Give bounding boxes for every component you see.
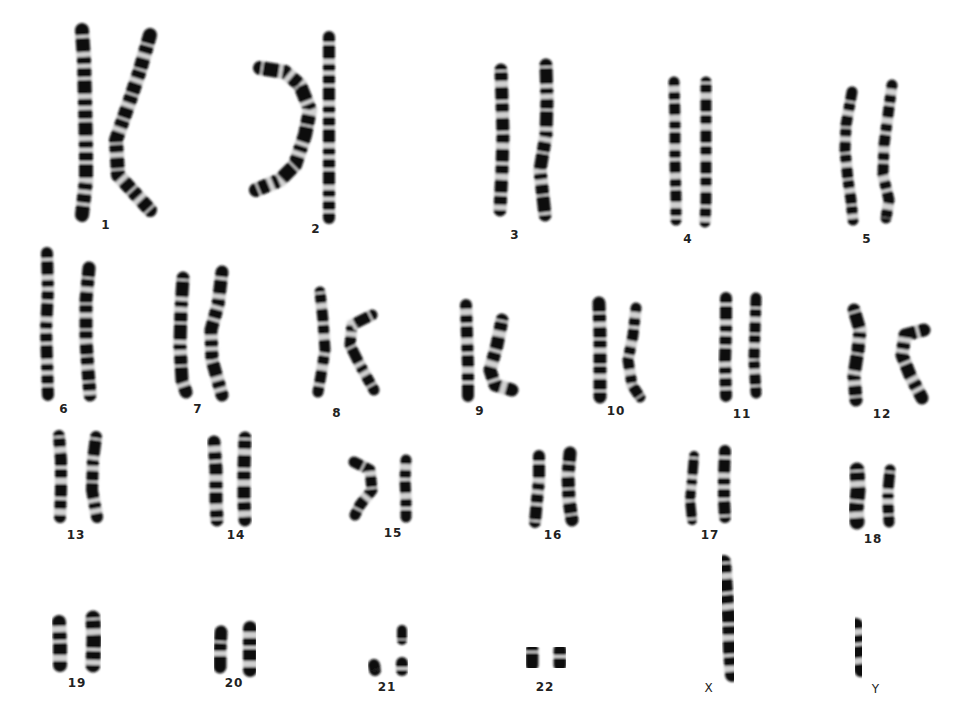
chromosome [93, 618, 94, 665]
chromosome [220, 632, 221, 667]
chromosome-layer [0, 0, 961, 727]
chromosome-pair-22 [532, 650, 560, 665]
chromosome-pair-21 [374, 630, 402, 670]
chromosome [535, 456, 539, 522]
chromosome-pair-18 [856, 470, 890, 522]
chromosome-label-8: 8 [332, 406, 341, 420]
chromosome-pair-11 [725, 298, 756, 396]
chromosome-label-14: 14 [227, 528, 246, 542]
chromosome-pair-12 [854, 310, 924, 400]
chromosome-pair-2 [256, 37, 329, 218]
chromosome-label-7: 7 [193, 402, 202, 416]
chromosome-label-18: 18 [864, 532, 883, 546]
chromosome-pair-7 [180, 272, 222, 395]
chromosome-label-21: 21 [378, 680, 397, 694]
chromosome-pair-13 [59, 436, 97, 517]
chromosome [82, 30, 86, 215]
chromosome [116, 35, 150, 210]
chromosome [180, 278, 186, 392]
chromosome-label-y: Y [872, 682, 880, 696]
chromosome [256, 68, 310, 190]
chromosome-pair-3 [500, 65, 547, 215]
chromosome-label-5: 5 [862, 232, 871, 246]
chromosome-label-12: 12 [873, 407, 892, 421]
chromosome-label-4: 4 [683, 232, 692, 246]
chromosome-label-22: 22 [536, 680, 555, 694]
chromosome-label-15: 15 [384, 526, 403, 540]
chromosome-pair-14 [214, 438, 245, 520]
karyotype-image: 12345678910111213141516171819202122XY [0, 0, 961, 727]
chromosome [724, 451, 725, 517]
chromosome-pair-5 [845, 85, 892, 220]
chromosome-pair-x [724, 562, 732, 675]
chromosome-pair-8 [318, 292, 374, 392]
chromosome-label-17: 17 [701, 528, 720, 542]
chromosome [705, 82, 706, 222]
chromosome-label-13: 13 [67, 528, 86, 542]
chromosome [92, 437, 97, 517]
chromosome-label-19: 19 [68, 676, 87, 690]
chromosome-label-6: 6 [59, 402, 68, 416]
chromosome-pair-17 [690, 451, 725, 520]
chromosome-label-20: 20 [225, 676, 244, 690]
chromosome-pair-4 [674, 82, 706, 222]
chromosome [500, 70, 503, 210]
chromosome-label-x: X [704, 681, 713, 695]
chromosome-pair-16 [535, 453, 572, 522]
chromosome-label-16: 16 [544, 528, 563, 542]
chromosome-label-11: 11 [733, 407, 752, 421]
chromosome-label-2: 2 [311, 222, 320, 236]
chromosome-pair-9 [466, 305, 512, 396]
chromosome-pair-y [856, 625, 861, 670]
chromosome [374, 665, 375, 670]
chromosome-label-10: 10 [607, 404, 626, 418]
chromosome-label-1: 1 [101, 218, 110, 232]
chromosome-pair-6 [46, 253, 90, 395]
chromosome-label-3: 3 [510, 228, 519, 242]
chromosome-pair-20 [220, 628, 250, 670]
chromosome-pair-19 [59, 618, 94, 665]
chromosome-pair-1 [82, 30, 150, 215]
chromosome-label-9: 9 [475, 404, 484, 418]
chromosome-pair-10 [599, 303, 640, 397]
chromosome-pair-15 [354, 460, 406, 517]
